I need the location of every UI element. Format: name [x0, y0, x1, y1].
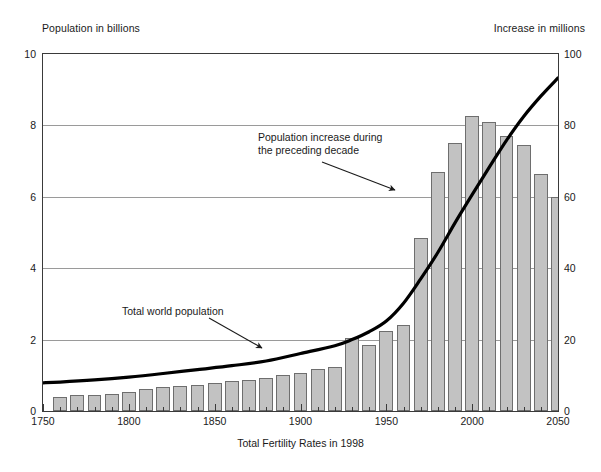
- population-curve-svg: [43, 54, 558, 411]
- left-axis-caption: Population in billions: [42, 22, 140, 34]
- chart-canvas: Population in billions Increase in milli…: [0, 0, 601, 472]
- plot-inner: [43, 54, 558, 411]
- x-axis-tick: [77, 407, 78, 412]
- right-ytick-20: 20: [564, 335, 594, 345]
- curve-annotation-text: Total world population: [122, 305, 224, 318]
- xtick-2000: 2000: [452, 416, 492, 426]
- x-axis-tick: [541, 407, 542, 412]
- right-ytick-80: 80: [564, 120, 594, 130]
- x-axis-tick: [249, 407, 250, 412]
- x-axis-tick: [558, 404, 559, 412]
- x-axis-tick: [335, 407, 336, 412]
- x-axis-tick: [129, 404, 130, 412]
- right-ytick-100: 100: [564, 49, 594, 59]
- x-axis-tick: [369, 407, 370, 412]
- x-axis-tick: [215, 404, 216, 412]
- x-axis-tick: [352, 407, 353, 412]
- right-ytick-60: 60: [564, 192, 594, 202]
- x-axis-tick: [95, 407, 96, 412]
- x-axis-tick: [438, 407, 439, 412]
- x-axis-tick: [43, 404, 44, 412]
- xtick-1850: 1850: [195, 416, 235, 426]
- xtick-1750: 1750: [23, 416, 63, 426]
- left-ytick-10: 10: [8, 49, 36, 59]
- x-axis-tick: [404, 407, 405, 412]
- x-axis-tick: [198, 407, 199, 412]
- x-axis-tick: [232, 407, 233, 412]
- right-ytick-40: 40: [564, 263, 594, 273]
- x-axis-tick: [163, 407, 164, 412]
- x-axis-tick: [455, 407, 456, 412]
- left-ytick-4: 4: [8, 263, 36, 273]
- x-axis-tick: [421, 407, 422, 412]
- x-axis-tick: [489, 407, 490, 412]
- left-ytick-2: 2: [8, 335, 36, 345]
- right-axis-caption: Increase in millions: [494, 22, 585, 34]
- x-axis-tick: [386, 404, 387, 412]
- x-axis-tick: [301, 404, 302, 412]
- x-axis-tick: [112, 407, 113, 412]
- x-axis-tick: [318, 407, 319, 412]
- x-axis-title: Total Fertility Rates in 1998: [0, 437, 601, 449]
- xtick-1900: 1900: [281, 416, 321, 426]
- left-ytick-6: 6: [8, 192, 36, 202]
- bars-annotation-text: Population increase during the preceding…: [258, 131, 382, 157]
- left-ytick-8: 8: [8, 120, 36, 130]
- x-axis-tick: [524, 407, 525, 412]
- x-axis-tick: [283, 407, 284, 412]
- x-axis-tick: [60, 407, 61, 412]
- xtick-1950: 1950: [366, 416, 406, 426]
- x-axis-tick: [146, 407, 147, 412]
- x-axis-tick: [266, 407, 267, 412]
- population-curve: [43, 78, 558, 383]
- xtick-2050: 2050: [538, 416, 578, 426]
- x-axis-tick: [472, 404, 473, 412]
- plot-area: [42, 53, 559, 412]
- xtick-1800: 1800: [109, 416, 149, 426]
- x-axis-tick: [180, 407, 181, 412]
- x-axis-tick: [507, 407, 508, 412]
